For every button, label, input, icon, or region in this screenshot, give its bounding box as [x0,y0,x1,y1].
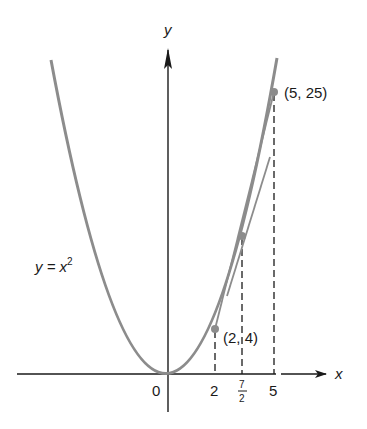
origin-label: 0 [152,382,160,399]
secant-line [215,92,274,329]
parabola-figure: y x 0 2 7 2 5 (5, 25) (2, 4) y = x2 [0,0,367,429]
point-2-4 [211,325,219,333]
curve-label-exponent: 2 [67,256,73,267]
point-5-25 [270,88,278,96]
point-tangency [238,232,246,240]
x-tick-7-2-numerator: 7 [239,379,245,390]
x-axis-label: x [334,365,343,382]
curve-label-base: y = x [34,258,68,275]
tangent-line [227,157,270,296]
point-label-5-25: (5, 25) [284,84,327,101]
x-tick-5: 5 [269,382,277,399]
x-tick-7-2-denominator: 2 [239,393,245,404]
y-axis-label: y [163,21,173,38]
point-label-2-4: (2, 4) [223,329,258,346]
x-tick-2: 2 [210,382,218,399]
curve-label: y = x2 [34,256,73,275]
